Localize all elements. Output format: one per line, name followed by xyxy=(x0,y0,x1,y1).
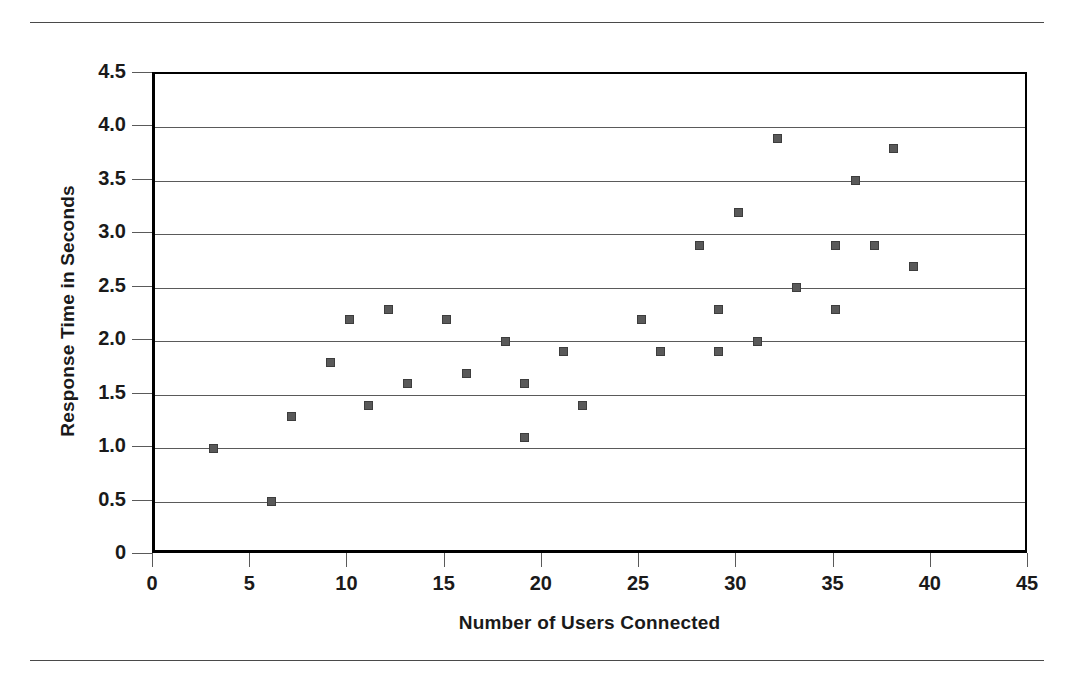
data-point xyxy=(870,241,879,250)
x-axis-tick xyxy=(541,553,542,567)
y-axis-title: Response Time in Seconds xyxy=(57,101,79,521)
y-axis-tick-label: 0.5 xyxy=(62,488,126,511)
data-point xyxy=(442,315,451,324)
x-axis-tick-label: 30 xyxy=(705,572,765,595)
x-axis-tick xyxy=(638,553,639,567)
x-axis-tick-label: 5 xyxy=(219,572,279,595)
gridline xyxy=(155,395,1025,396)
data-point xyxy=(267,497,276,506)
x-axis-tick xyxy=(152,553,153,567)
gridline xyxy=(155,234,1025,235)
data-point xyxy=(753,337,762,346)
data-point xyxy=(209,444,218,453)
data-point xyxy=(462,369,471,378)
y-axis-tick-label: 4.0 xyxy=(62,113,126,136)
data-point xyxy=(714,305,723,314)
x-axis-tick-label: 25 xyxy=(608,572,668,595)
x-axis-tick-label: 40 xyxy=(900,572,960,595)
data-point xyxy=(520,379,529,388)
y-axis-tick-label: 1.5 xyxy=(62,381,126,404)
data-point xyxy=(384,305,393,314)
data-point xyxy=(637,315,646,324)
x-axis-tick xyxy=(249,553,250,567)
x-axis-tick xyxy=(930,553,931,567)
gridline xyxy=(155,181,1025,182)
y-axis-tick xyxy=(132,179,152,180)
data-point xyxy=(559,347,568,356)
data-point xyxy=(734,208,743,217)
gridline xyxy=(155,341,1025,342)
data-point xyxy=(326,358,335,367)
y-axis-tick xyxy=(132,125,152,126)
y-axis-tick-label: 2.5 xyxy=(62,274,126,297)
data-point xyxy=(364,401,373,410)
y-axis-tick-label: 0 xyxy=(62,541,126,564)
gridline xyxy=(155,502,1025,503)
x-axis-tick xyxy=(735,553,736,567)
y-axis-tick-label: 1.0 xyxy=(62,434,126,457)
y-axis-tick-label: 4.5 xyxy=(62,60,126,83)
x-axis-tick-label: 0 xyxy=(122,572,182,595)
gridline xyxy=(155,127,1025,128)
y-axis-tick xyxy=(132,393,152,394)
gridline xyxy=(155,448,1025,449)
y-axis-tick xyxy=(132,72,152,73)
y-axis-tick xyxy=(132,553,152,554)
data-point xyxy=(501,337,510,346)
x-axis-tick-label: 35 xyxy=(803,572,863,595)
scatter-chart-figure: Response Time in Seconds Number of Users… xyxy=(0,0,1074,683)
data-point xyxy=(403,379,412,388)
data-point xyxy=(287,412,296,421)
y-axis-tick-label: 2.0 xyxy=(62,327,126,350)
x-axis-tick xyxy=(833,553,834,567)
data-point xyxy=(714,347,723,356)
y-axis-tick xyxy=(132,500,152,501)
x-axis-tick xyxy=(346,553,347,567)
data-point xyxy=(773,134,782,143)
data-point xyxy=(345,315,354,324)
data-point xyxy=(909,262,918,271)
y-axis-tick-label: 3.0 xyxy=(62,220,126,243)
x-axis-tick-label: 10 xyxy=(316,572,376,595)
data-point xyxy=(831,305,840,314)
data-point xyxy=(695,241,704,250)
y-axis-tick xyxy=(132,232,152,233)
y-axis-tick xyxy=(132,339,152,340)
x-axis-tick xyxy=(1027,553,1028,567)
x-axis-tick-label: 20 xyxy=(511,572,571,595)
x-axis-tick xyxy=(444,553,445,567)
data-point xyxy=(792,283,801,292)
y-axis-tick xyxy=(132,446,152,447)
data-point xyxy=(520,433,529,442)
x-axis-tick-label: 15 xyxy=(414,572,474,595)
data-point xyxy=(889,144,898,153)
x-axis-tick-label: 45 xyxy=(997,572,1057,595)
data-point xyxy=(851,176,860,185)
y-axis-tick-label: 3.5 xyxy=(62,167,126,190)
data-point xyxy=(578,401,587,410)
data-point xyxy=(656,347,665,356)
x-axis-title: Number of Users Connected xyxy=(152,612,1027,634)
gridline xyxy=(155,288,1025,289)
data-point xyxy=(831,241,840,250)
y-axis-tick xyxy=(132,286,152,287)
plot-area xyxy=(152,72,1027,553)
